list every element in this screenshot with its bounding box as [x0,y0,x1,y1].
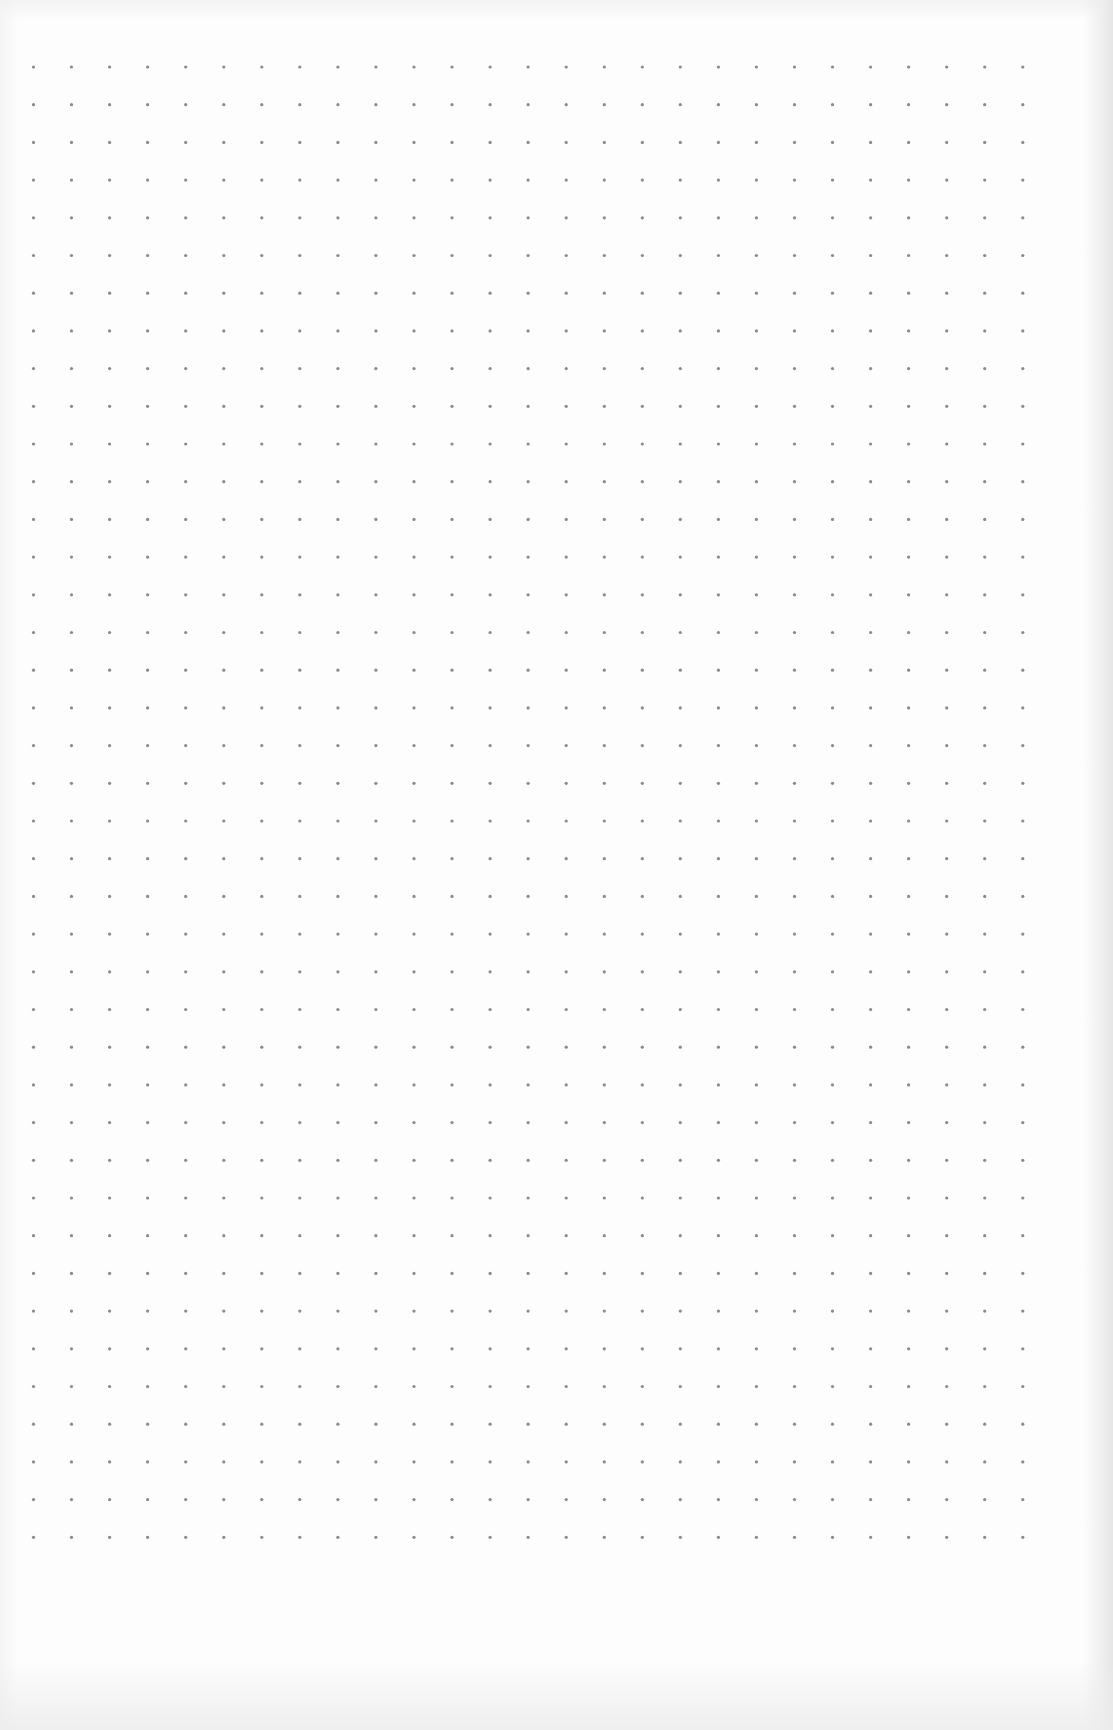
grid-dot [565,669,568,672]
grid-dot [565,1460,568,1463]
grid-dot [108,706,111,709]
grid-dot [793,669,796,672]
grid-dot [450,1083,453,1086]
grid-dot [146,1347,149,1350]
grid-dot [831,1272,834,1275]
grid-dot [1021,179,1024,182]
grid-dot [907,1196,910,1199]
grid-dot [1021,970,1024,973]
grid-dot [869,254,872,257]
grid-dot [374,367,377,370]
grid-dot [146,970,149,973]
grid-dot [603,933,606,936]
grid-dot [641,593,644,596]
grid-dot [260,254,263,257]
grid-dot [298,1423,301,1426]
grid-dot [336,1159,339,1162]
grid-dot [32,819,35,822]
grid-dot [1021,1083,1024,1086]
grid-dot [565,1498,568,1501]
grid-dot [641,1196,644,1199]
grid-dot [869,1083,872,1086]
grid-dot [260,103,263,106]
grid-dot [298,1536,301,1539]
grid-dot [298,442,301,445]
grid-dot [641,1385,644,1388]
grid-dot [374,819,377,822]
grid-dot [603,1423,606,1426]
grid-dot [793,405,796,408]
grid-dot [260,933,263,936]
grid-dot [527,1234,530,1237]
grid-dot [527,1159,530,1162]
grid-dot [717,782,720,785]
grid-dot [1021,141,1024,144]
grid-dot [70,141,73,144]
grid-dot [907,1310,910,1313]
grid-dot [108,556,111,559]
grid-dot [755,480,758,483]
grid-dot [489,141,492,144]
grid-dot [945,1536,948,1539]
grid-dot [374,1310,377,1313]
grid-dot [70,103,73,106]
grid-dot [260,1536,263,1539]
grid-dot [755,782,758,785]
grid-dot [945,593,948,596]
grid-dot [336,518,339,521]
grid-dot [450,518,453,521]
grid-dot [1021,518,1024,521]
grid-dot [336,179,339,182]
grid-dot [336,556,339,559]
grid-dot [146,1536,149,1539]
grid-dot [184,895,187,898]
grid-dot [222,329,225,332]
grid-dot [983,706,986,709]
grid-dot [108,216,111,219]
grid-dot [565,292,568,295]
grid-dot [1021,1046,1024,1049]
grid-dot [336,1498,339,1501]
grid-dot [1021,1423,1024,1426]
grid-dot [412,179,415,182]
grid-dot [450,970,453,973]
grid-dot [222,442,225,445]
grid-dot [489,367,492,370]
grid-dot [412,1310,415,1313]
grid-dot [679,367,682,370]
grid-dot [565,1159,568,1162]
grid-dot [679,141,682,144]
grid-dot [70,367,73,370]
grid-dot [717,1046,720,1049]
grid-dot [298,669,301,672]
grid-dot [260,1310,263,1313]
grid-dot [679,631,682,634]
grid-dot [412,442,415,445]
grid-dot [336,1121,339,1124]
grid-dot [32,1423,35,1426]
grid-dot [184,782,187,785]
grid-dot [412,970,415,973]
grid-dot [527,819,530,822]
grid-dot [831,367,834,370]
grid-dot [146,669,149,672]
grid-dot [603,556,606,559]
grid-dot [336,706,339,709]
grid-dot [222,933,225,936]
grid-dot [679,103,682,106]
grid-dot [184,970,187,973]
grid-dot [869,65,872,68]
grid-dot [450,103,453,106]
grid-dot [260,1046,263,1049]
grid-dot [146,179,149,182]
grid-dot [32,556,35,559]
grid-dot [336,1046,339,1049]
grid-dot [222,405,225,408]
grid-dot [32,1234,35,1237]
grid-dot [32,103,35,106]
grid-dot [184,669,187,672]
grid-dot [907,706,910,709]
grid-dot [565,1385,568,1388]
grid-dot [70,518,73,521]
grid-dot [945,857,948,860]
